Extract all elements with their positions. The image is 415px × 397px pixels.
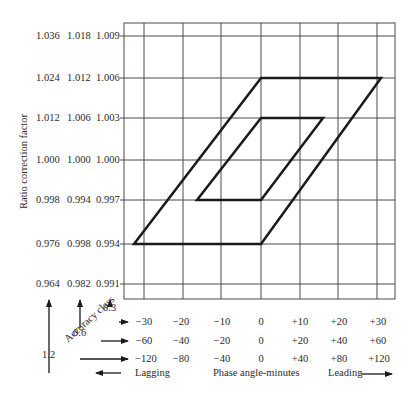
- y-tick: 0.997: [96, 194, 120, 205]
- y-tick: 1.009: [96, 30, 120, 41]
- x-tick: −30: [126, 316, 162, 327]
- x-tick: +40: [321, 335, 357, 346]
- x-tick: +60: [360, 335, 396, 346]
- y-tick: 1.000: [36, 154, 60, 165]
- x-tick: +20: [321, 316, 357, 327]
- lagging-label: Lagging: [135, 367, 170, 378]
- x-tick: −20: [204, 335, 240, 346]
- x-tick: +20: [282, 335, 318, 346]
- x-tick: −40: [163, 335, 199, 346]
- y-tick: 1.000: [96, 154, 120, 165]
- x-tick: +120: [361, 353, 397, 364]
- y-tick: 1.006: [96, 72, 120, 83]
- x-tick: +30: [360, 316, 396, 327]
- y-tick: 0.994: [96, 238, 120, 249]
- x-tick: +40: [282, 353, 318, 364]
- y-tick: 1.000: [67, 154, 91, 165]
- y-axis-title: Ratio correction factor: [18, 107, 29, 217]
- x-tick: +10: [282, 316, 318, 327]
- inner-parallelogram: [197, 118, 323, 200]
- y-tick: 0.982: [67, 278, 91, 289]
- x-tick: −60: [126, 335, 162, 346]
- x-tick: −20: [163, 316, 199, 327]
- y-tick: 1.003: [96, 112, 120, 123]
- y-tick: 0.994: [67, 194, 91, 205]
- y-tick: 1.018: [67, 30, 91, 41]
- x-tick: −40: [204, 353, 240, 364]
- x-tick: −10: [204, 316, 240, 327]
- y-tick: 1.012: [67, 72, 91, 83]
- class-label-12: 1.2: [42, 349, 55, 360]
- y-tick: 0.998: [67, 238, 91, 249]
- phase-angle-label: Phase angle-minutes: [213, 367, 300, 378]
- y-tick: 0.991: [96, 278, 120, 289]
- y-tick: 1.012: [36, 112, 60, 123]
- y-tick: 1.006: [67, 112, 91, 123]
- x-tick: 0: [243, 353, 279, 364]
- x-tick: +80: [321, 353, 357, 364]
- y-tick: 0.964: [36, 278, 60, 289]
- x-tick: 0: [243, 316, 279, 327]
- y-tick: 1.024: [36, 72, 60, 83]
- x-tick: −80: [163, 353, 199, 364]
- grid: [124, 23, 395, 299]
- x-tick: −120: [128, 353, 164, 364]
- y-tick: 0.998: [36, 194, 60, 205]
- y-tick: 0.976: [36, 238, 60, 249]
- x-tick: 0: [243, 335, 279, 346]
- outer-parallelogram: [134, 78, 381, 244]
- leading-label: Leading: [328, 367, 362, 378]
- y-tick: 1.036: [36, 30, 60, 41]
